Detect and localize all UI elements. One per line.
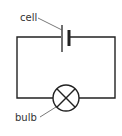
cell-leader-line xyxy=(38,18,62,30)
cell-label: cell xyxy=(20,12,37,23)
bulb-symbol xyxy=(53,85,79,111)
circuit-diagram: cell bulb xyxy=(0,0,122,136)
cell-symbol xyxy=(62,25,69,52)
bulb-label: bulb xyxy=(15,112,37,123)
wire-right xyxy=(70,37,115,98)
wire-left xyxy=(17,37,61,98)
bulb-leader-line xyxy=(40,107,56,117)
